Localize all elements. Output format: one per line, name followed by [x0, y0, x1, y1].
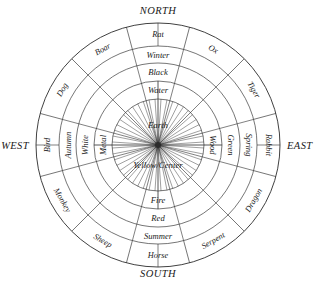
zodiac-divider [228, 59, 244, 75]
direction-label-east: EAST [286, 140, 313, 151]
zodiac-divider [72, 59, 88, 75]
ring-label-west-season: Autumn [63, 132, 73, 160]
center-element-label: Earth [147, 120, 169, 130]
zodiac-divider [254, 113, 276, 119]
zodiac-label-dog: Dog [54, 81, 69, 99]
ring-label-north-color: Black [148, 67, 168, 77]
direction-label-south: SOUTH [140, 268, 177, 279]
wheel-svg: RatOxTigerRabbitDragonSerpentHorseSheepM… [0, 0, 316, 282]
radial-spoke [158, 145, 228, 215]
ring-label-south-color: Red [150, 213, 165, 223]
zodiac-label-ox: Ox [207, 43, 220, 56]
ring-label-north-season: Winter [147, 50, 171, 60]
cosmology-wheel-diagram: RatOxTigerRabbitDragonSerpentHorseSheepM… [0, 0, 316, 282]
ring-label-east-element: Wood [208, 135, 218, 155]
direction-label-west: WEST [1, 140, 30, 151]
ring-label-west-color: White [80, 135, 90, 155]
ring-label-east-season: Spring [244, 134, 254, 158]
hub-dot [155, 142, 161, 148]
zodiac-divider [126, 27, 132, 49]
zodiac-divider [254, 171, 276, 177]
ring-label-west-element: Metal [98, 134, 108, 156]
center-color-label: Yellow/Center [133, 160, 183, 170]
zodiac-label-boar: Boar [93, 41, 113, 57]
zodiac-label-rat: Rat [151, 30, 164, 39]
ring-label-south-element: Fire [150, 195, 166, 205]
zodiac-label-sheep: Sheep [92, 232, 114, 250]
ring-label-east-color: Green [226, 134, 236, 155]
zodiac-label-horse: Horse [147, 251, 169, 260]
center-hub [155, 142, 161, 148]
direction-label-north: NORTH [139, 5, 177, 16]
zodiac-divider [184, 27, 190, 49]
zodiac-label-rabbit: Rabbit [264, 133, 273, 157]
zodiac-divider [126, 241, 132, 263]
zodiac-divider [228, 215, 244, 231]
zodiac-divider [184, 241, 190, 263]
ring-label-south-season: Summer [144, 231, 173, 241]
zodiac-divider [40, 171, 62, 177]
zodiac-divider [72, 215, 88, 231]
zodiac-label-bird: Bird [43, 137, 52, 152]
zodiac-label-tiger: Tiger [245, 80, 262, 100]
zodiac-divider [40, 113, 62, 119]
ring-label-north-element: Water [148, 85, 169, 95]
